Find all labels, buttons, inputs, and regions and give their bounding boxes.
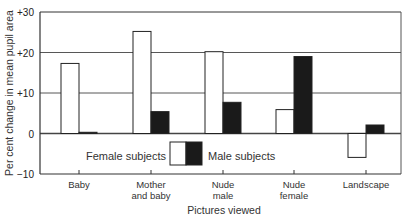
y-tick-label: +10 xyxy=(17,88,34,99)
x-category-label: Motherand baby xyxy=(131,179,170,201)
bars xyxy=(61,31,384,157)
y-axis-title: Per cent change in mean pupil area xyxy=(3,10,15,176)
x-category-label: Nudemale xyxy=(212,179,235,201)
x-category-label: Nudefemale xyxy=(280,179,309,201)
bar-male-nude-male xyxy=(223,102,241,133)
y-tick-label: +20 xyxy=(17,48,34,59)
bar-female-mother-and-baby xyxy=(133,31,151,133)
x-category-label: Baby xyxy=(68,179,90,190)
x-axis-title: Pictures viewed xyxy=(187,204,261,216)
legend-label-male: Male subjects xyxy=(208,150,276,162)
bar-female-baby xyxy=(61,63,79,133)
bar-male-mother-and-baby xyxy=(151,112,169,134)
bar-female-nude-female xyxy=(276,110,294,134)
y-axis-ticks: +30+20+100−10 xyxy=(17,7,34,180)
legend-swatch-female xyxy=(170,142,186,165)
y-tick-label: +30 xyxy=(17,7,34,18)
bar-female-nude-male xyxy=(205,52,223,134)
bar-male-nude-female xyxy=(294,57,312,134)
y-tick-label: 0 xyxy=(28,129,34,140)
legend-swatch-male xyxy=(186,142,202,165)
x-axis-ticks: BabyMotherand babyNudemaleNudefemaleLand… xyxy=(68,170,389,201)
y-tick-label: −10 xyxy=(17,169,34,180)
bar-male-baby xyxy=(79,132,97,133)
bar-female-landscape xyxy=(348,134,366,158)
bar-male-landscape xyxy=(366,125,384,134)
x-category-label: Landscape xyxy=(343,179,389,190)
legend-label-female: Female subjects xyxy=(86,150,167,162)
bar-chart: +30+20+100−10 BabyMotherand babyNudemale… xyxy=(0,0,405,219)
legend: Female subjects Male subjects xyxy=(86,142,276,165)
